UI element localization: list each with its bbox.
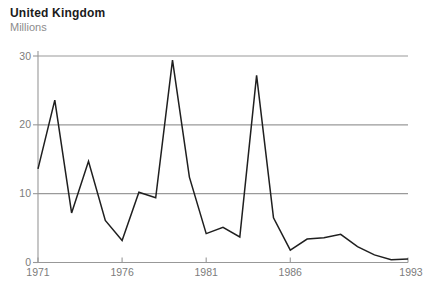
x-axis-label: 1971 — [26, 266, 50, 278]
y-axis-label: 10 — [19, 187, 31, 199]
y-axis-label: 20 — [19, 118, 31, 130]
x-axis-label: 1986 — [279, 266, 303, 278]
x-axis-label: 1981 — [195, 266, 219, 278]
x-axis-label: 1993 — [399, 266, 423, 278]
x-axis-label: 1976 — [110, 266, 134, 278]
y-axis-label: 30 — [19, 50, 31, 62]
chart-panel: United Kingdom Millions 0102030197119761… — [0, 0, 429, 296]
chart-unit-label: Millions — [10, 21, 105, 34]
chart-title: United Kingdom — [10, 6, 105, 21]
line-chart: 010203019711976198119861993 — [0, 0, 429, 296]
data-line-series — [38, 60, 408, 260]
chart-header: United Kingdom Millions — [10, 6, 105, 34]
